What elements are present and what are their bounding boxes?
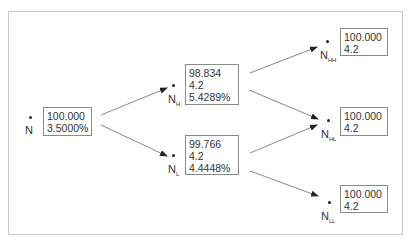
node-nl-coupon: 4.2 [189,150,235,162]
node-nh-coupon: 4.2 [189,79,235,91]
node-nhl-dot [327,119,330,122]
node-nhh-price: 100.000 [344,31,384,43]
node-nll-dot [328,201,331,204]
node-nll-label: NLL [321,210,335,227]
node-nl-label: NL [168,163,179,180]
edge-n-nh [101,88,167,115]
node-nl-price: 99.766 [189,138,235,150]
node-nll-coupon: 4.2 [344,200,384,212]
node-nh-rate: 5.4289% [189,91,235,103]
edge-n-nl [101,125,167,156]
node-nhh-label: NHH [320,49,336,66]
node-nhl-box: 100.000 4.2 [340,107,388,136]
node-nl-rate: 4.4448% [189,162,235,174]
node-nl-box: 99.766 4.2 4.4448% [185,135,239,175]
edge-nh-nhh [250,47,317,73]
node-nh-dot [172,84,175,87]
node-n-rate: 3.5000% [47,122,88,134]
node-nhh-dot [326,40,329,43]
node-nll-box: 100.000 4.2 [340,185,388,213]
edge-nl-nhl [250,125,317,153]
node-nhl-label: NHL [321,128,336,145]
node-nhl-price: 100.000 [344,110,384,122]
node-nll-price: 100.000 [344,188,384,200]
node-nhh-box: 100.000 4.2 [340,28,388,56]
node-nh-price: 98.834 [189,67,235,79]
node-nh-box: 98.834 4.2 5.4289% [185,64,239,105]
node-n-price: 100.000 [47,110,88,122]
node-nhh-coupon: 4.2 [344,43,384,55]
edge-nh-nhl [249,90,318,119]
node-nh-label: NH [168,93,180,110]
node-nl-dot [172,154,175,157]
node-n-label: N [25,124,33,141]
node-n-dot [29,116,32,119]
edge-nl-nll [250,171,318,196]
node-nhl-coupon: 4.2 [344,122,384,134]
node-n-box: 100.000 3.5000% [43,107,92,136]
